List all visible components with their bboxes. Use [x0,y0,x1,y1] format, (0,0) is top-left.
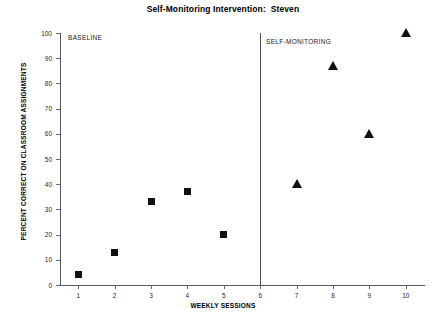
y-tick-label: 90 [22,55,52,62]
y-tick-mark [56,184,60,185]
x-tick-mark [369,285,370,289]
data-point-marker [292,179,302,188]
y-tick-label: 60 [22,130,52,137]
y-tick-label: 0 [22,282,52,289]
y-tick-mark [56,209,60,210]
y-tick-mark [56,260,60,261]
data-point-marker [364,129,374,138]
y-tick-mark [56,58,60,59]
x-tick-mark [187,285,188,289]
data-point-marker [148,198,155,205]
y-tick-mark [56,235,60,236]
x-tick-mark [151,285,152,289]
y-tick-mark [56,83,60,84]
x-tick-label: 8 [323,292,343,300]
data-point-marker [328,61,338,70]
y-tick-label: 10 [22,256,52,263]
x-tick-mark [333,285,334,289]
x-tick-label: 3 [141,292,161,300]
y-tick-mark [56,33,60,34]
data-point-marker [75,271,82,278]
x-tick-label: 5 [214,292,234,300]
x-tick-label: 6 [250,292,270,300]
x-tick-mark [260,285,261,289]
x-tick-label: 10 [396,292,416,300]
data-point-marker [111,249,118,256]
x-tick-mark [297,285,298,289]
y-tick-label: 50 [22,156,52,163]
phase-label-intervention: SELF-MONITORING [266,38,331,45]
y-tick-mark [56,159,60,160]
y-tick-label: 70 [22,105,52,112]
y-tick-label: 40 [22,181,52,188]
x-axis-title: WEEKLY SESSIONS [0,302,446,309]
phase-change-line [260,33,261,285]
data-point-marker [401,28,411,37]
x-tick-label: 9 [359,292,379,300]
x-tick-mark [115,285,116,289]
x-tick-mark [78,285,79,289]
y-tick-label: 20 [22,231,52,238]
x-tick-label: 2 [105,292,125,300]
chart-title: Self-Monitoring Intervention: Steven [0,4,446,14]
y-tick-mark [56,285,60,286]
x-tick-label: 7 [287,292,307,300]
y-tick-label: 30 [22,206,52,213]
y-axis-line [60,33,61,286]
data-point-marker [220,231,227,238]
y-axis-title: PERCENT CORRECT ON CLASSROOM ASSIGNMENTS [20,52,27,252]
x-tick-label: 1 [68,292,88,300]
x-tick-label: 4 [177,292,197,300]
y-tick-label: 100 [22,30,52,37]
x-tick-mark [406,285,407,289]
phase-label-baseline: BASELINE [68,34,102,41]
chart-container: Self-Monitoring Intervention: Steven 010… [0,0,446,318]
x-tick-mark [224,285,225,289]
y-tick-mark [56,134,60,135]
y-tick-label: 80 [22,80,52,87]
data-point-marker [184,188,191,195]
y-tick-mark [56,109,60,110]
